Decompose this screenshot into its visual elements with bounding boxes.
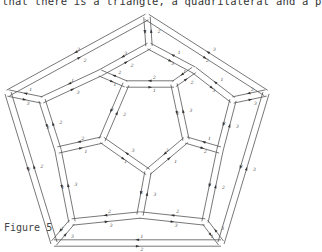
edge-label: 2 (250, 87, 254, 92)
edge-label: 1 (178, 50, 181, 55)
edge-label: 2 (175, 209, 179, 214)
edge-label: 1 (153, 88, 156, 93)
edge-label: 2 (175, 111, 179, 116)
edge-label: 1 (113, 82, 116, 87)
edge-label: 3 (77, 90, 80, 95)
edge-label: 1 (209, 182, 212, 187)
arrow-icon (148, 86, 152, 89)
edge-label: 2 (39, 164, 43, 169)
edge-label: 1 (208, 136, 211, 141)
arrow-icon (135, 239, 139, 242)
edge-label: 2 (83, 58, 87, 63)
edge-label: 3 (111, 107, 114, 112)
edge-label: 1 (211, 234, 214, 239)
edge-label: 3 (254, 101, 257, 106)
edge-label: 2 (221, 185, 225, 190)
arrow-icon (115, 111, 118, 115)
edge-label: 1 (71, 78, 74, 83)
edge-label: 3 (166, 148, 169, 153)
edge-label: 2 (122, 112, 126, 117)
arrow-icon (148, 80, 152, 83)
arrow-icon (171, 54, 175, 57)
edge-label: 2 (118, 70, 122, 75)
edge-label: 3 (190, 108, 193, 113)
edge-label: 2 (205, 58, 209, 63)
edge-label: 3 (236, 124, 239, 129)
edge-label: 1 (174, 159, 177, 164)
edge-label: 2 (239, 164, 243, 169)
figure-caption: Figure 5 (4, 222, 52, 233)
arrow-icon (245, 167, 247, 171)
arrow-icon (206, 51, 210, 54)
edge-label: 3 (28, 167, 31, 172)
edge-label: 2 (190, 80, 194, 85)
edge-label: 1 (140, 190, 143, 195)
edge-label: 3 (212, 88, 215, 93)
edge-label: 3 (221, 226, 224, 231)
edge-label: 2 (157, 29, 161, 34)
arrow-icon (33, 165, 35, 169)
edge-label: 2 (58, 120, 62, 125)
edge-label: 1 (124, 159, 127, 164)
edge-label: 1 (61, 226, 64, 231)
edge-label: 2 (203, 149, 207, 154)
edge-label: 3 (154, 192, 157, 197)
arrow-icon (112, 75, 116, 78)
arrow-icon (52, 122, 54, 126)
edge-label: 2 (222, 121, 226, 126)
edge-label: 1 (84, 149, 87, 154)
edge-label: 2 (81, 136, 85, 141)
edge-label: 3 (175, 223, 178, 228)
edge-label: 3 (77, 47, 80, 52)
arrow-icon (77, 57, 81, 60)
edge-label: 3 (75, 182, 78, 187)
edge-label: 3 (27, 101, 30, 106)
edge-label: 3 (253, 167, 256, 172)
edge-label: 3 (47, 125, 50, 130)
edge-label: 1 (221, 77, 224, 82)
arrow-icon (79, 147, 83, 150)
arrow-icon (202, 141, 206, 143)
edge-label: 3 (171, 61, 174, 66)
arrow-icon (70, 88, 74, 91)
edge-label: 1 (61, 185, 64, 190)
edge-label: 2 (140, 247, 144, 252)
arrow-icon (228, 124, 231, 128)
edge-label: 3 (124, 51, 127, 56)
edge-label: 2 (152, 75, 156, 80)
edge-label: 1 (183, 69, 186, 74)
edge-label: 3 (132, 148, 135, 153)
edge-label: 3 (71, 234, 74, 239)
edge-label: 2 (130, 63, 134, 68)
edge-label: 2 (107, 209, 111, 214)
arrow-icon (136, 245, 140, 248)
arrow-icon (124, 61, 128, 64)
edge-label: 3 (213, 47, 216, 52)
edge-label: 1 (144, 29, 147, 34)
edge-label: 1 (29, 87, 32, 92)
edge-label: 3 (110, 223, 113, 228)
edge-label: 1 (141, 234, 144, 239)
